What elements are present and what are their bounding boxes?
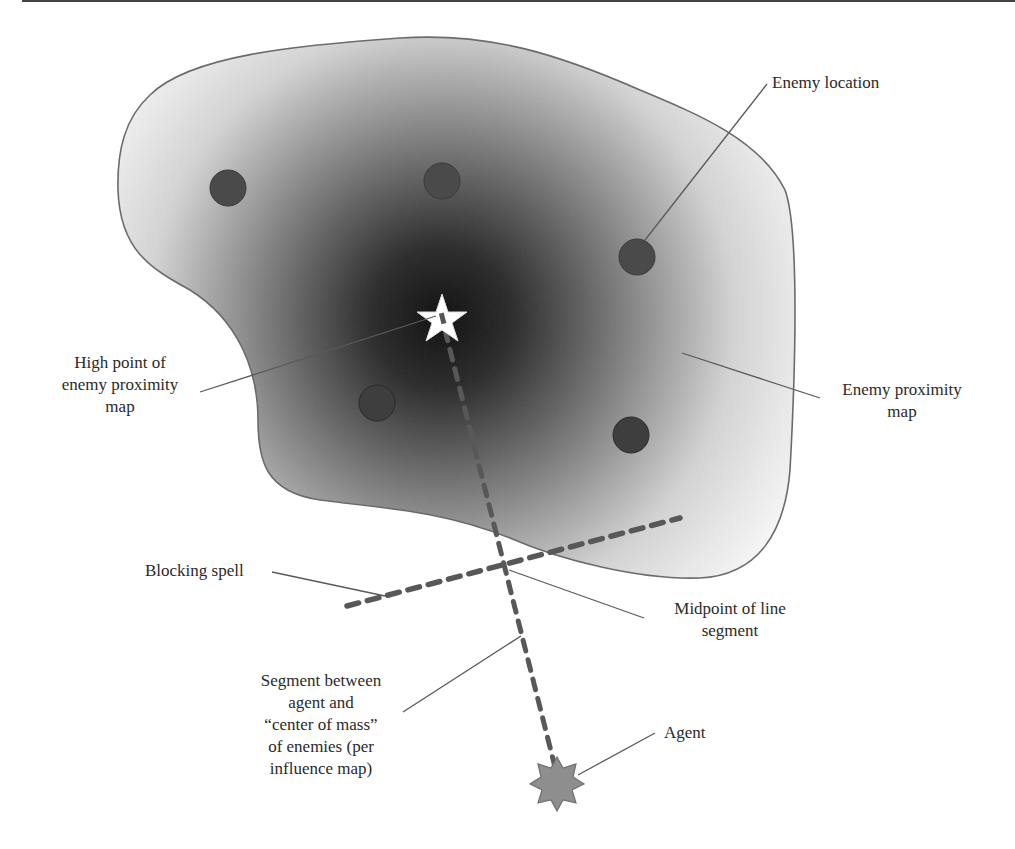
agent-star-icon	[530, 757, 584, 811]
label-line: map	[40, 396, 200, 418]
label-segment: Segment between agent and “center of mas…	[236, 670, 406, 780]
enemy-marker	[359, 385, 395, 421]
label-text: Enemy location	[772, 73, 879, 92]
label-high-point: High point of enemy proximity map	[40, 352, 200, 418]
label-line: map	[822, 401, 982, 423]
leader-blocking-spell	[272, 572, 385, 596]
leader-agent	[578, 733, 655, 775]
label-text: Blocking spell	[145, 561, 244, 580]
label-line: agent and	[236, 692, 406, 714]
label-agent: Agent	[664, 722, 706, 744]
label-line: segment	[650, 620, 810, 642]
enemy-marker	[424, 163, 460, 199]
label-midpoint: Midpoint of line segment	[650, 598, 810, 642]
enemy-marker	[619, 239, 655, 275]
leader-midpoint	[509, 570, 644, 618]
enemy-marker	[613, 417, 649, 453]
label-proximity-map: Enemy proximity map	[822, 379, 982, 423]
label-line: Segment between	[236, 670, 406, 692]
label-line: High point of	[40, 352, 200, 374]
label-text: Agent	[664, 723, 706, 742]
influence-map-diagram	[0, 0, 1015, 849]
label-line: enemy proximity	[40, 374, 200, 396]
label-line: of enemies (per	[236, 736, 406, 758]
label-enemy-location: Enemy location	[772, 72, 879, 94]
label-line: “center of mass”	[236, 714, 406, 736]
enemy-proximity-map	[118, 37, 795, 578]
label-line: Enemy proximity	[822, 379, 982, 401]
label-line: influence map)	[236, 758, 406, 780]
label-blocking-spell: Blocking spell	[145, 560, 244, 582]
label-line: Midpoint of line	[650, 598, 810, 620]
enemy-marker	[210, 170, 246, 206]
leader-segment	[403, 636, 521, 712]
